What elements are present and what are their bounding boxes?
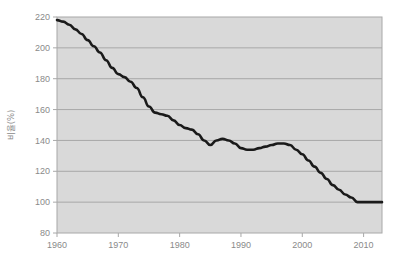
line-chart: 80100120140160180200220 1960197019801990… xyxy=(0,0,395,268)
y-tick-label: 160 xyxy=(35,105,50,115)
plot-area xyxy=(57,17,382,233)
y-tick-label: 80 xyxy=(40,228,50,238)
y-tick-label: 220 xyxy=(35,12,50,22)
y-axis-title: 비율(%) xyxy=(6,110,16,141)
y-tick-label: 200 xyxy=(35,43,50,53)
x-tick-label: 1990 xyxy=(231,240,251,250)
x-tick-label: 1980 xyxy=(170,240,190,250)
y-tick-label: 120 xyxy=(35,166,50,176)
x-tick-label: 1970 xyxy=(108,240,128,250)
y-tick-label: 100 xyxy=(35,197,50,207)
x-tick-label: 1960 xyxy=(47,240,67,250)
x-tick-label: 2000 xyxy=(292,240,312,250)
x-tick-label: 2010 xyxy=(354,240,374,250)
chart-container: 80100120140160180200220 1960197019801990… xyxy=(0,0,395,268)
y-tick-label: 140 xyxy=(35,136,50,146)
y-tick-label: 180 xyxy=(35,74,50,84)
